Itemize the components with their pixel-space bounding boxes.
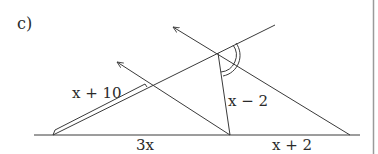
geometry-figure: c) x + 10 3x x + 2 x − 2	[0, 0, 378, 154]
angle-arcs	[221, 43, 240, 76]
transversal-line	[53, 25, 275, 135]
label-3x: 3x	[136, 136, 155, 154]
lower-arrow-line	[117, 62, 230, 135]
label-x-minus-2: x − 2	[228, 92, 268, 110]
upper-arrow-line	[173, 27, 350, 135]
part-label: c)	[17, 14, 32, 33]
label-x-plus-2: x + 2	[272, 136, 312, 154]
label-x-plus-10: x + 10	[72, 84, 122, 102]
